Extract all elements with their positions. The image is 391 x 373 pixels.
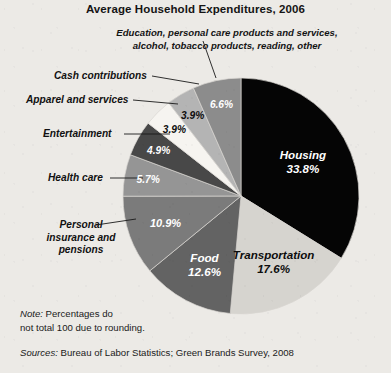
pie-slices xyxy=(123,78,359,314)
chart-page: Average Household Expenditures, 2006 Edu… xyxy=(0,0,391,373)
pie-slice-label: 10.9% xyxy=(150,217,181,229)
pie-slice-label: Food12.6% xyxy=(188,251,221,278)
pie-slice-label: 5.7% xyxy=(136,174,159,185)
sources-text: Sources: Bureau of Labor Statistics; Gre… xyxy=(20,347,294,358)
sources-body: Bureau of Labor Statistics; Green Brands… xyxy=(58,347,294,358)
note-line1: Percentages do xyxy=(43,308,113,319)
leader-line-cash-contributions xyxy=(152,76,199,84)
pie-slice-label: 4.9% xyxy=(146,145,170,156)
pie-slice-label: 6.6% xyxy=(210,99,233,110)
leader-line-education xyxy=(203,41,216,78)
pie-slice-label: 3.9% xyxy=(181,110,204,121)
pie-slice-label: Housing33.8% xyxy=(280,148,326,175)
pie-slice-label: 3.9% xyxy=(163,124,186,135)
note-line2: not total 100 due to rounding. xyxy=(20,322,145,333)
sources-prefix: Sources: xyxy=(20,347,58,358)
note-text: Note: Percentages do not total 100 due t… xyxy=(20,307,145,334)
note-prefix: Note: xyxy=(20,308,43,319)
